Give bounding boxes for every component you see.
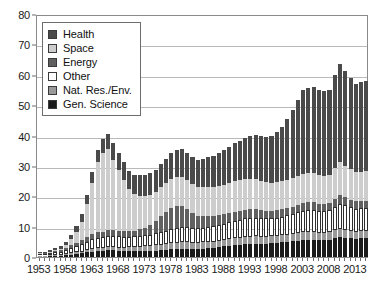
- legend-item[interactable]: Energy: [48, 55, 132, 69]
- legend-item-label: Other: [63, 70, 90, 82]
- bar-segment: [222, 224, 226, 240]
- x-axis-tick-mark: [307, 258, 308, 261]
- y-axis-tick-label: 20: [18, 192, 30, 203]
- x-axis-tick-mark: [49, 258, 50, 261]
- bar-segment: [106, 236, 110, 248]
- bar-segment: [280, 217, 284, 236]
- x-axis-tick-mark: [334, 258, 335, 261]
- bar-segment: [111, 143, 115, 160]
- bar-segment: [206, 227, 210, 242]
- x-axis-tick-mark: [202, 258, 203, 261]
- bar-segment: [275, 243, 279, 257]
- bar-segment: [269, 183, 273, 211]
- bar-segment: [111, 247, 115, 250]
- bar-segment: [327, 90, 331, 175]
- bar-segment: [233, 212, 237, 221]
- x-axis-tick-mark: [207, 258, 208, 261]
- bar-segment: [301, 203, 305, 211]
- bar-segment: [322, 204, 326, 211]
- bar-segment: [148, 251, 152, 257]
- bar-segment: [180, 206, 184, 227]
- x-axis-tick-mark: [249, 258, 250, 261]
- bar-segment: [196, 216, 200, 229]
- bar-segment: [243, 218, 247, 237]
- bar-segment: [196, 249, 200, 257]
- x-axis-tick-mark: [239, 258, 240, 261]
- bar-segment: [275, 132, 279, 182]
- bar-segment: [48, 250, 52, 251]
- legend-item[interactable]: Health: [48, 27, 132, 41]
- bar-segment: [185, 153, 189, 180]
- bar-segment: [280, 242, 284, 257]
- bar-segment: [164, 183, 168, 212]
- bar-segment: [317, 175, 321, 204]
- x-axis-tick-mark: [365, 258, 366, 261]
- bar-segment: [275, 236, 279, 243]
- bar-segment: [185, 242, 189, 249]
- bar-segment: [312, 202, 316, 209]
- x-axis-tick-mark: [170, 258, 171, 261]
- x-axis-tick-mark: [86, 258, 87, 261]
- x-axis-tick-mark: [91, 258, 92, 261]
- bar-segment: [59, 252, 63, 255]
- bar-segment: [148, 246, 152, 251]
- bar-segment: [64, 254, 68, 255]
- legend-item[interactable]: Other: [48, 69, 132, 83]
- bar-segment: [275, 218, 279, 237]
- legend-item[interactable]: Space: [48, 41, 132, 55]
- bar-segment: [154, 245, 158, 250]
- bar-segment: [148, 173, 152, 195]
- bar-segment: [143, 246, 147, 251]
- bar-segment: [243, 138, 247, 179]
- x-axis-tick-mark: [186, 258, 187, 261]
- bar-segment: [269, 236, 273, 243]
- bar-segment: [122, 251, 126, 257]
- bar-segment: [90, 252, 94, 257]
- bar-segment: [238, 245, 242, 257]
- bar-segment: [69, 253, 73, 254]
- legend-swatch-icon: [48, 86, 57, 95]
- bar-segment: [233, 221, 237, 239]
- bar-segment: [327, 203, 331, 210]
- bar-segment: [306, 202, 310, 210]
- bar-segment: [154, 170, 158, 192]
- bar-segment: [254, 179, 258, 209]
- bar-segment: [201, 187, 205, 216]
- bar-segment: [53, 250, 57, 251]
- bar-segment: [80, 253, 84, 257]
- x-axis-tick-mark: [318, 258, 319, 261]
- bar-segment: [317, 204, 321, 211]
- bar-segment: [285, 215, 289, 234]
- bar-segment: [143, 235, 147, 246]
- bar-segment: [217, 186, 221, 215]
- bar-segment: [238, 180, 242, 210]
- x-axis-tick-mark: [149, 258, 150, 261]
- x-axis-tick-mark: [271, 258, 272, 261]
- x-axis-tick-label: 2013: [343, 263, 366, 275]
- bar-segment: [296, 241, 300, 257]
- x-axis-tick-label: 1983: [185, 263, 208, 275]
- legend-item[interactable]: Gen. Science: [48, 97, 132, 111]
- bar-segment: [64, 242, 68, 246]
- bar-segment: [132, 236, 136, 247]
- bar-segment: [222, 150, 226, 185]
- bar-segment: [338, 237, 342, 257]
- bar-segment: [85, 252, 89, 257]
- bar-segment: [138, 196, 142, 229]
- bar-segment: [111, 250, 115, 257]
- y-axis-tick-label: 70: [18, 40, 30, 51]
- x-axis-tick-mark: [213, 258, 214, 261]
- legend-item[interactable]: Nat. Res./Env.: [48, 83, 132, 97]
- bar-segment: [233, 181, 237, 211]
- x-axis-tick-mark: [160, 258, 161, 261]
- bar-segment: [343, 197, 347, 205]
- bar-segment: [85, 237, 89, 242]
- bar-segment: [269, 211, 273, 219]
- bar-segment: [248, 237, 252, 244]
- x-axis-tick-mark: [281, 258, 282, 261]
- bar-segment: [317, 240, 321, 257]
- x-axis-tick-mark: [344, 258, 345, 261]
- bar-segment: [201, 228, 205, 243]
- bar-segment: [196, 160, 200, 187]
- bar-segment: [359, 208, 363, 231]
